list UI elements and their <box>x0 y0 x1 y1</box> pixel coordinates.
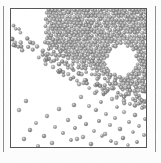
particle-svg <box>11 9 146 147</box>
particle-field <box>11 9 146 147</box>
simulation-container-box <box>10 8 147 148</box>
figure-panel <box>0 0 161 163</box>
right-panel-rule <box>155 6 156 152</box>
left-panel-rule <box>3 6 4 152</box>
